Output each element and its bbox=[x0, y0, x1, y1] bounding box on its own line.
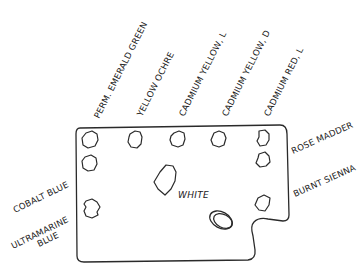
label-cobalt-blue: COBALT BLUE bbox=[11, 179, 70, 214]
paint-well-burnt-sienna bbox=[255, 195, 270, 211]
label-yellow-ochre: YELLOW OCHRE bbox=[134, 50, 176, 119]
label-cadmium-red-l: CADMIUM RED, L bbox=[262, 46, 305, 118]
paint-well-cadmium-yellow-l bbox=[170, 131, 185, 147]
label-white: WHITE bbox=[178, 190, 209, 200]
label-cadmium-yellow-l: CADMIUM YELLOW, L bbox=[177, 30, 228, 118]
label-burnt-sienna: BURNT SIENNA bbox=[292, 162, 357, 198]
paint-well-ultramarine-blue bbox=[84, 199, 100, 218]
paint-well-cadmium-red-l bbox=[257, 130, 269, 146]
paint-well-cobalt-blue bbox=[82, 155, 97, 171]
paint-well-yellow-ochre bbox=[128, 131, 142, 148]
paint-well-white bbox=[154, 165, 176, 195]
paint-well-cadmium-yellow-d bbox=[211, 131, 226, 147]
label-cadmium-yellow-d: CADMIUM YELLOW, D bbox=[220, 28, 272, 118]
label-rose-madder: ROSE MADDER bbox=[290, 120, 355, 156]
palette-diagram: PERM. EMERALD GREEN YELLOW OCHRE CADMIUM… bbox=[0, 0, 360, 277]
paint-well-rose-madder bbox=[256, 152, 270, 167]
paint-well-perm-emerald-green bbox=[82, 131, 98, 148]
thumb-hole-inner bbox=[211, 211, 235, 232]
